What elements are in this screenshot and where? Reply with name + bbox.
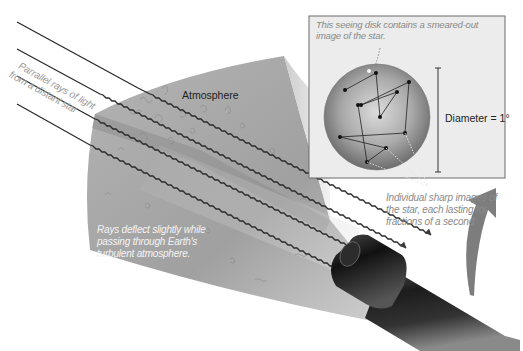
diameter-label: Diameter = 1°	[445, 112, 510, 124]
deflect-line-2: passing through Earth's	[97, 236, 206, 248]
seeing-disk-line-1: This seeing disk contains a smeared-out	[316, 19, 478, 30]
deflect-caption: Rays deflect slightly while passing thro…	[97, 224, 206, 260]
individual-line-3: fractions of a second	[386, 216, 497, 228]
telescope	[331, 234, 520, 351]
deflect-line-3: turbulent atmosphere.	[97, 248, 206, 260]
individual-line-2: the star, each lasting for	[386, 204, 497, 216]
highlight-point	[367, 69, 371, 73]
deflect-line-1: Rays deflect slightly while	[97, 224, 206, 236]
individual-line-1: Individual sharp images of	[386, 192, 497, 204]
seeing-disk-caption: This seeing disk contains a smeared-out …	[316, 19, 478, 41]
individual-images-caption: Individual sharp images of the star, eac…	[386, 192, 497, 228]
seeing-diagram: Atmosphere Parrallel rays of light from …	[0, 0, 523, 351]
diagram-canvas	[0, 0, 523, 351]
seeing-disk-line-2: image of the star.	[316, 30, 478, 41]
atmosphere-label: Atmosphere	[182, 89, 239, 101]
